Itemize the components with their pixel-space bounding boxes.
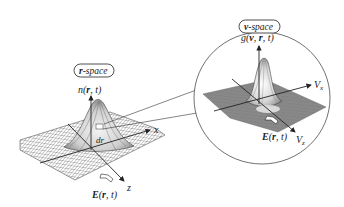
callout-line-upper	[104, 89, 199, 124]
r-space-plot: dr x z E(r, t) n(r, t) r-space	[20, 64, 165, 201]
z-axis-label: z	[126, 182, 131, 193]
svg-text:v-space: v-space	[244, 22, 273, 32]
v-space-magnifier: Vx Vz E(r, t) g(v, r, t) v-space	[194, 20, 330, 164]
v-space-function-label: g(v, r, t)	[241, 32, 274, 44]
phase-space-diagram: dr x z E(r, t) n(r, t) r-space	[0, 0, 344, 207]
volume-element	[96, 124, 103, 129]
x-axis-label: x	[153, 124, 159, 135]
v-space-field-label: E(r, t)	[261, 131, 288, 143]
r-space-function-label: n(r, t)	[78, 84, 102, 96]
svg-text:r-space: r-space	[79, 66, 108, 76]
field-arrow-icon	[100, 174, 113, 182]
volume-element-label: dr	[96, 135, 105, 145]
r-space-field-label: E(r, t)	[91, 189, 118, 201]
